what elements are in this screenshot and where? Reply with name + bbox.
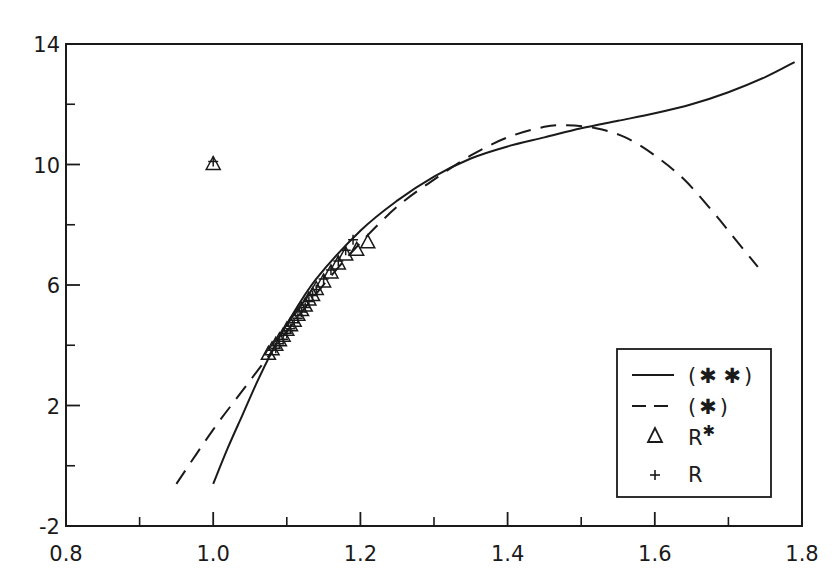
x-tick-label: 1.4: [491, 542, 524, 566]
triangle-marker: [361, 235, 375, 248]
legend: (✱ ✱) (✱) R✱ R: [617, 349, 771, 497]
plus-marker: [208, 156, 218, 166]
x-tick-label: 0.8: [49, 542, 82, 566]
y-tick-label: -2: [39, 515, 60, 539]
x-tick-label: 1.0: [196, 542, 229, 566]
x-tick-label: 1.6: [638, 542, 671, 566]
y-tick-label: 14: [33, 33, 60, 57]
x-tick-label: 1.8: [785, 542, 818, 566]
y-tick-label: 10: [33, 154, 60, 178]
legend-label-r: R: [688, 463, 703, 487]
chart: 0.81.01.21.41.61.8 -2261014 (✱ ✱) (✱) R✱: [0, 0, 839, 583]
y-tick-label: 6: [47, 274, 60, 298]
x-tick-label: 1.2: [344, 542, 377, 566]
x-axis: 0.81.01.21.41.61.8: [49, 512, 818, 566]
y-tick-label: 2: [47, 395, 60, 419]
y-axis: -2261014: [33, 33, 80, 539]
legend-label-single-star: (✱): [688, 395, 728, 419]
